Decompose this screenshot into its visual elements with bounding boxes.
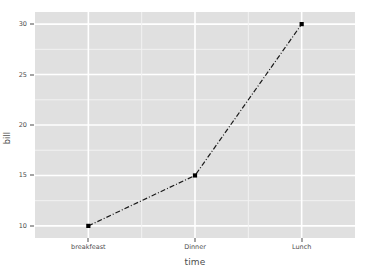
x-axis-tick-mark xyxy=(301,238,302,242)
x-axis-tick-label: breakfeast xyxy=(71,243,106,251)
y-axis-tick-mark xyxy=(30,24,34,25)
x-axis-tick-label: Lunch xyxy=(292,243,311,251)
plot-svg xyxy=(35,12,355,238)
chart-container: bill 1015202530 breakfeastDinnerLunch ti… xyxy=(0,0,366,276)
x-axis-tick-label: Dinner xyxy=(184,243,206,251)
y-axis-tick-label: 20 xyxy=(0,121,27,129)
data-point xyxy=(86,224,90,228)
data-point xyxy=(193,173,197,177)
y-axis-tick-label: 15 xyxy=(0,171,27,179)
y-axis-tick-label: 10 xyxy=(0,222,27,230)
x-axis-tick-mark xyxy=(195,238,196,242)
y-axis-tick-mark xyxy=(30,175,34,176)
y-axis-tick-mark xyxy=(30,74,34,75)
data-point xyxy=(300,22,304,26)
y-axis-tick-mark xyxy=(30,225,34,226)
y-axis-title: bill xyxy=(0,0,14,276)
y-axis-tick-mark xyxy=(30,125,34,126)
x-axis-tick-mark xyxy=(88,238,89,242)
y-axis-tick-label: 30 xyxy=(0,20,27,28)
x-axis-title: time xyxy=(35,257,355,267)
y-axis-tick-label: 25 xyxy=(0,71,27,79)
plot-panel xyxy=(35,12,355,238)
